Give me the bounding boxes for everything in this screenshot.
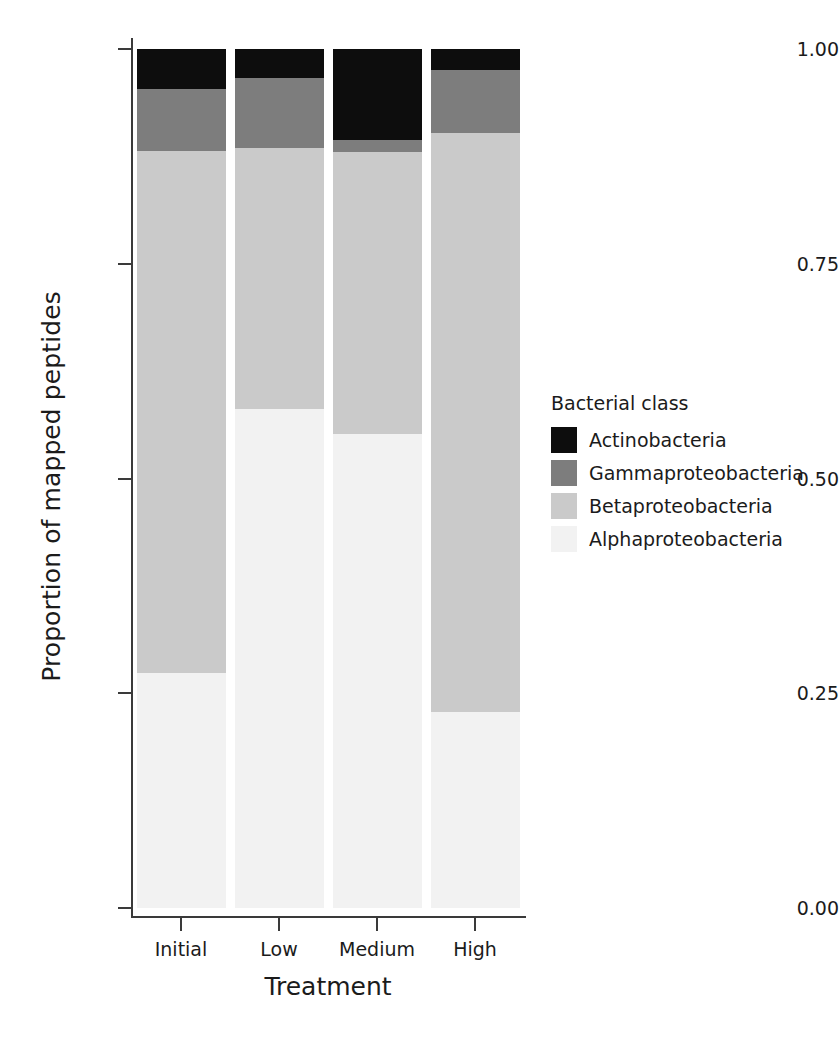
bar-segment-alphaproteobacteria bbox=[333, 434, 422, 908]
bar-high bbox=[431, 49, 520, 908]
bar-segment-alphaproteobacteria bbox=[137, 673, 226, 908]
bar-low bbox=[235, 49, 324, 908]
legend-swatch-icon bbox=[551, 526, 577, 552]
x-tick-mark bbox=[180, 918, 182, 931]
bar-segment-betaproteobacteria bbox=[333, 152, 422, 434]
legend-item: Alphaproteobacteria bbox=[551, 522, 831, 555]
bar-segment-gammaproteobacteria bbox=[431, 70, 520, 134]
y-tick-mark bbox=[118, 48, 131, 50]
bar-medium bbox=[333, 49, 422, 908]
bar-segment-gammaproteobacteria bbox=[137, 89, 226, 152]
chart-figure: Proportion of mapped peptides 0.000.250.… bbox=[0, 0, 839, 1044]
legend-swatch-icon bbox=[551, 460, 577, 486]
x-tick-label: High bbox=[405, 938, 545, 960]
y-tick-mark bbox=[118, 907, 131, 909]
legend-item-label: Alphaproteobacteria bbox=[589, 528, 783, 550]
x-axis-label: Treatment bbox=[132, 972, 524, 1001]
y-tick-mark bbox=[118, 263, 131, 265]
bar-segment-actinobacteria bbox=[431, 49, 520, 70]
x-tick-mark bbox=[474, 918, 476, 931]
legend: Bacterial class ActinobacteriaGammaprote… bbox=[551, 392, 831, 555]
legend-item-label: Gammaproteobacteria bbox=[589, 462, 804, 484]
legend-item: Betaproteobacteria bbox=[551, 489, 831, 522]
y-tick-label: 0.75 bbox=[731, 253, 839, 275]
y-tick-mark bbox=[118, 692, 131, 694]
x-tick-mark bbox=[376, 918, 378, 931]
y-tick-mark bbox=[118, 478, 131, 480]
plot-panel bbox=[132, 49, 524, 908]
bar-segment-gammaproteobacteria bbox=[235, 78, 324, 148]
y-tick-label: 1.00 bbox=[731, 38, 839, 60]
legend-item: Actinobacteria bbox=[551, 423, 831, 456]
y-axis-label: Proportion of mapped peptides bbox=[37, 227, 66, 747]
legend-item-label: Actinobacteria bbox=[589, 429, 727, 451]
bar-initial bbox=[137, 49, 226, 908]
legend-entries: ActinobacteriaGammaproteobacteriaBetapro… bbox=[551, 423, 831, 555]
legend-item: Gammaproteobacteria bbox=[551, 456, 831, 489]
bar-segment-actinobacteria bbox=[333, 49, 422, 140]
bar-segment-actinobacteria bbox=[235, 49, 324, 78]
bar-segment-actinobacteria bbox=[137, 49, 226, 89]
bar-segment-gammaproteobacteria bbox=[333, 140, 422, 152]
bar-segment-alphaproteobacteria bbox=[431, 712, 520, 908]
bar-segment-betaproteobacteria bbox=[137, 151, 226, 672]
bar-segment-betaproteobacteria bbox=[235, 148, 324, 409]
legend-item-label: Betaproteobacteria bbox=[589, 495, 773, 517]
legend-swatch-icon bbox=[551, 427, 577, 453]
x-tick-mark bbox=[278, 918, 280, 931]
y-tick-label: 0.00 bbox=[731, 897, 839, 919]
legend-title: Bacterial class bbox=[551, 392, 831, 414]
bar-segment-betaproteobacteria bbox=[431, 133, 520, 712]
x-axis-line bbox=[131, 916, 526, 918]
bar-segment-alphaproteobacteria bbox=[235, 409, 324, 908]
legend-swatch-icon bbox=[551, 493, 577, 519]
y-tick-label: 0.25 bbox=[731, 682, 839, 704]
